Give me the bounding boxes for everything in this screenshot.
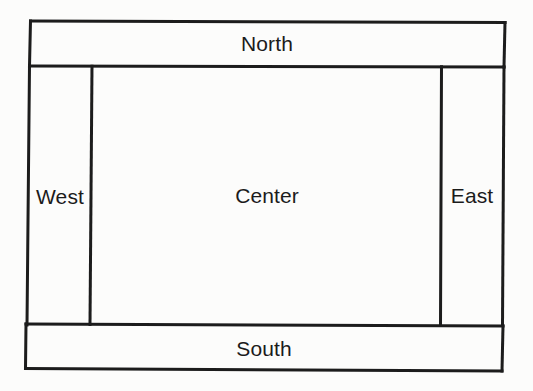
borderlayout-diagram: North West Center East South xyxy=(0,0,533,391)
region-label-east: East xyxy=(441,183,503,208)
region-label-north: North xyxy=(30,31,504,56)
region-label-west: West xyxy=(28,184,92,209)
region-label-south: South xyxy=(27,336,501,361)
region-label-center: Center xyxy=(92,183,442,208)
